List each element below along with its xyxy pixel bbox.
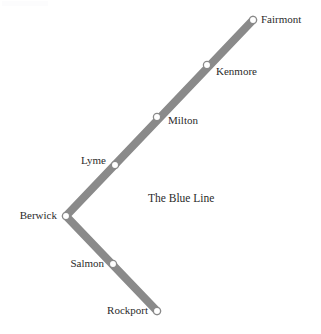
station-label-lyme[interactable]: Lyme [81,155,106,166]
route-title: The Blue Line [148,193,214,205]
station-marker-lyme[interactable] [111,161,118,168]
station-marker-milton[interactable] [153,113,160,120]
station-marker-salmon[interactable] [109,260,116,267]
station-marker-kenmore[interactable] [203,61,210,68]
transit-map-canvas: Fairmont Kenmore Milton Lyme Berwick Sal… [0,0,321,334]
station-label-milton[interactable]: Milton [168,115,198,126]
transit-route-svg [0,0,321,334]
station-label-fairmont[interactable]: Fairmont [261,14,301,25]
station-marker-berwick[interactable] [62,212,69,219]
station-label-rockport[interactable]: Rockport [107,305,148,316]
station-label-salmon[interactable]: Salmon [70,258,104,269]
station-label-berwick[interactable]: Berwick [20,210,57,221]
station-marker-rockport[interactable] [153,307,160,314]
station-label-kenmore[interactable]: Kenmore [216,66,257,77]
station-marker-fairmont[interactable] [249,16,256,23]
